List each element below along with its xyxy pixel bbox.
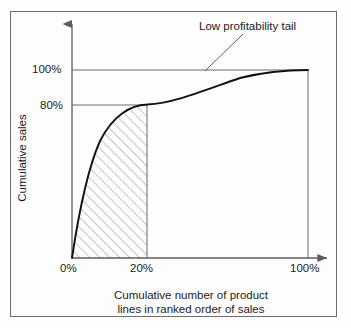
low-profitability-tail-annotation: Low profitability tail: [199, 20, 296, 33]
pareto-chart-figure: 100% 80% 0% 20% 100% Low profitability t…: [0, 0, 351, 328]
hatched-area-under-curve: [72, 105, 147, 258]
x-axis-title: Cumulative number of product lines in ra…: [57, 288, 325, 316]
y-axis-title: Cumulative sales: [16, 103, 28, 213]
annotation-leader-line: [205, 34, 243, 71]
x-axis-tick-label-20: 20%: [130, 262, 153, 275]
x-axis-tick-label-0: 0%: [60, 262, 77, 275]
x-axis-title-line-1: Cumulative number of product: [57, 288, 325, 302]
x-axis-title-line-2: lines in ranked order of sales: [57, 302, 325, 316]
y-axis-tick-label-80: 80%: [40, 99, 63, 112]
y-axis-tick-label-100: 100%: [32, 63, 61, 76]
chart-plot-svg: [0, 0, 351, 328]
x-axis-tick-label-100: 100%: [290, 262, 319, 275]
